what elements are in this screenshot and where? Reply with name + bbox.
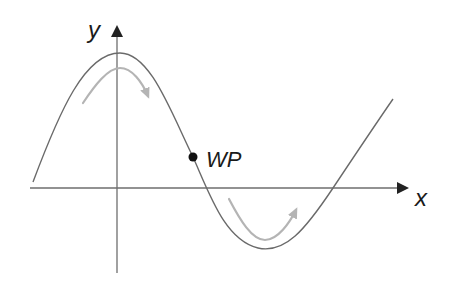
right-curvature-arrow xyxy=(83,68,148,103)
x-axis-arrowhead xyxy=(397,182,409,194)
x-axis-label: x xyxy=(414,184,428,211)
function-diagram: y x WP xyxy=(0,0,452,286)
inflection-point-marker xyxy=(189,153,198,162)
y-axis-arrowhead xyxy=(111,25,123,37)
inflection-point-label: WP xyxy=(206,147,242,172)
left-curvature-arrow xyxy=(229,199,296,240)
y-axis-label: y xyxy=(86,16,102,43)
